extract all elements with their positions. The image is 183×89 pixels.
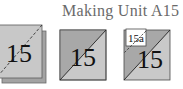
patch-label: 15a [128, 32, 144, 44]
step-1-stacked-squares: 15 [0, 25, 46, 83]
step-3-with-patch: 15a 15 [124, 29, 170, 80]
step-1-label: 15 [6, 39, 32, 68]
unit-diagram: 15 15 15a 15 [0, 0, 183, 89]
step-2-half-square-triangle: 15 [60, 30, 106, 80]
step-2-label: 15 [70, 43, 96, 72]
step-3-label: 15 [137, 45, 163, 74]
